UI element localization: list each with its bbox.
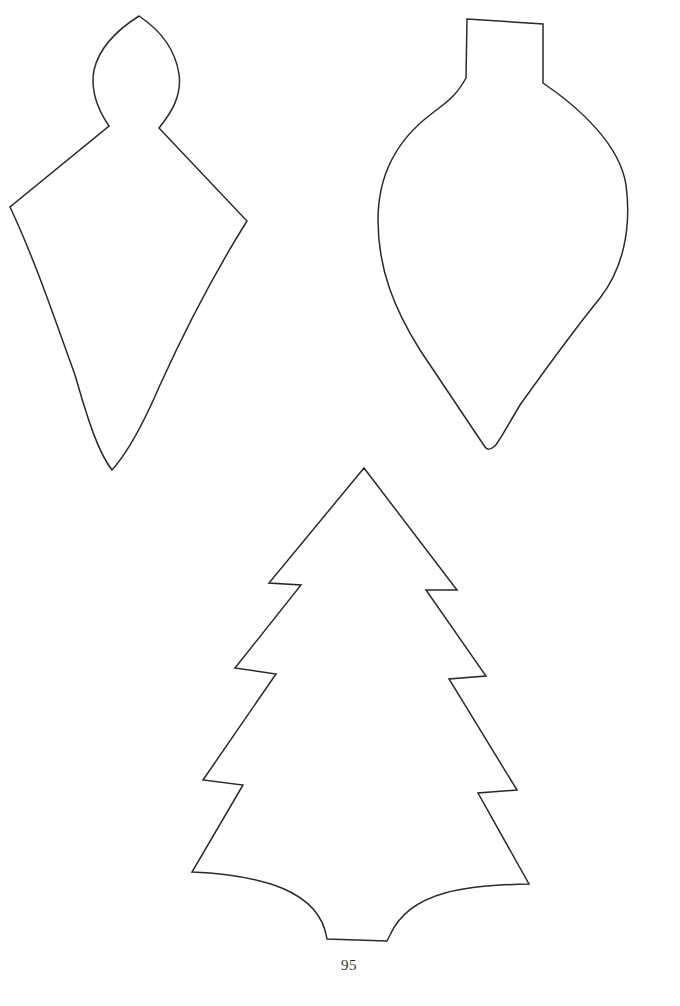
template-page: 95 [0, 0, 680, 1006]
teardrop-ornament-outline [378, 19, 628, 449]
christmas-tree-outline [192, 468, 529, 941]
diamond-drop-ornament-outline [10, 16, 247, 470]
page-number: 95 [0, 957, 680, 974]
template-shapes [0, 0, 680, 1006]
